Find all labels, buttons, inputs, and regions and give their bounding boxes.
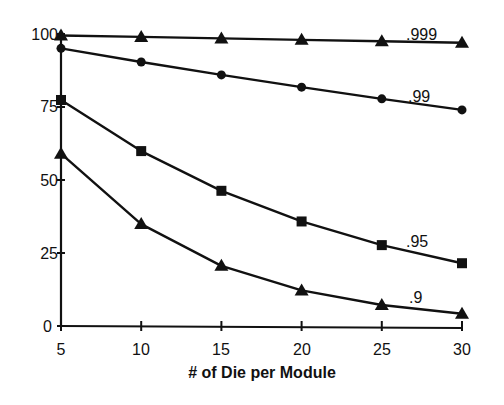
circle-marker <box>137 58 146 67</box>
series-label-95: .95 <box>406 233 428 250</box>
square-marker <box>136 146 146 156</box>
circle-marker <box>458 105 467 114</box>
triangle-marker <box>214 259 228 271</box>
x-tick-label-5: 5 <box>57 341 66 358</box>
series-line <box>61 35 462 42</box>
y-tick-label-100: 100 <box>31 26 58 43</box>
series-label-999: .999 <box>406 26 437 43</box>
y-tick-label-75: 75 <box>40 98 58 115</box>
x-axis-title: # of Die per Module <box>188 364 336 381</box>
x-tick-label-20: 20 <box>293 341 311 358</box>
series-label-99: .99 <box>408 88 430 105</box>
circle-marker <box>217 70 226 79</box>
square-marker <box>377 240 387 250</box>
x-tick-label-25: 25 <box>373 341 391 358</box>
square-marker <box>297 216 307 226</box>
y-tick-label-50: 50 <box>40 172 58 189</box>
square-marker <box>457 258 467 268</box>
series-line <box>61 100 462 263</box>
x-tick-label-15: 15 <box>212 341 230 358</box>
triangle-marker <box>54 147 68 159</box>
y-tick-label-0: 0 <box>43 318 52 335</box>
x-tick-label-10: 10 <box>132 341 150 358</box>
y-tick-label-25: 25 <box>40 245 58 262</box>
x-axis <box>60 326 462 328</box>
series-line <box>61 154 462 314</box>
square-marker <box>216 186 226 196</box>
circle-marker <box>297 83 306 92</box>
series-label-9: .9 <box>409 289 422 306</box>
circle-marker <box>377 94 386 103</box>
circle-marker <box>57 44 66 53</box>
x-tick-label-30: 30 <box>453 341 471 358</box>
series-group <box>54 28 469 318</box>
series-line <box>61 48 462 110</box>
yield-chart: 100 75 50 25 0 5 10 15 20 25 30 # of Die… <box>0 0 504 405</box>
